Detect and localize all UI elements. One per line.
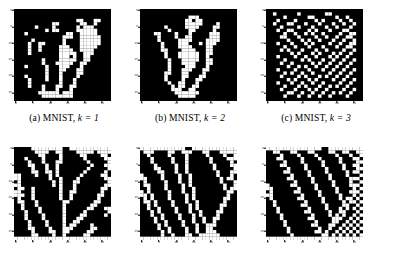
y-tick: 15 — [135, 59, 141, 62]
plot-area-a — [14, 9, 111, 101]
figure-panel-f: 0510152025 0510152025 — [252, 135, 380, 258]
y-tick: 15 — [261, 197, 267, 200]
y-tick: 0 — [262, 147, 266, 150]
y-tick-mark — [138, 10, 140, 11]
x-tick: 10 — [301, 101, 304, 106]
x-tick-label: 5 — [284, 242, 286, 245]
x-tick-label: 5 — [158, 103, 160, 106]
y-tick-mark — [264, 198, 266, 199]
plot-area-c — [266, 9, 363, 101]
x-tick-label: 5 — [158, 242, 160, 245]
y-tick-mark — [264, 148, 266, 149]
x-tick: 15 — [318, 101, 321, 106]
y-axis-f: 0510152025 — [256, 147, 266, 240]
binary-image-d — [14, 147, 111, 240]
y-tick-mark — [12, 59, 14, 60]
y-tick-mark — [138, 198, 140, 199]
x-tick-label: 15 — [318, 103, 321, 106]
x-tick-label: 25 — [101, 242, 104, 245]
y-tick: 25 — [135, 91, 141, 94]
x-tick-label: 0 — [141, 103, 143, 106]
x-tick: 0 — [141, 101, 143, 106]
plot-area-e — [140, 147, 237, 240]
x-tick-label: 20 — [83, 103, 86, 106]
y-tick: 5 — [136, 164, 140, 167]
x-tick: 5 — [32, 240, 34, 245]
x-tick-label: 0 — [267, 242, 269, 245]
y-tick: 10 — [135, 181, 141, 184]
y-axis-e: 0510152025 — [130, 147, 140, 240]
x-tick-label: 25 — [227, 242, 230, 245]
y-tick: 0 — [136, 9, 140, 12]
y-tick-mark — [12, 10, 14, 11]
y-tick: 15 — [9, 197, 15, 200]
x-tick-label: 15 — [66, 103, 69, 106]
x-tick-label: 25 — [353, 103, 356, 106]
x-tick-label: 25 — [101, 103, 104, 106]
x-tick: 5 — [284, 240, 286, 245]
x-tick: 0 — [15, 101, 17, 106]
caption-b-symbol: k = 2 — [204, 112, 225, 123]
x-tick-label: 10 — [301, 103, 304, 106]
x-tick: 5 — [32, 101, 34, 106]
x-tick-label: 10 — [301, 242, 304, 245]
y-axis-a: 0510152025 — [4, 9, 14, 101]
x-tick: 20 — [83, 240, 86, 245]
y-tick-mark — [138, 59, 140, 60]
y-tick-mark — [12, 148, 14, 149]
figure-panel-e: 0510152025 0510152025 — [126, 135, 254, 258]
x-tick-label: 15 — [66, 242, 69, 245]
caption-a: (a) MNIST, k = 1 — [0, 112, 128, 123]
x-tick-label: 5 — [284, 103, 286, 106]
caption-b: (b) MNIST, k = 2 — [126, 112, 254, 123]
x-tick: 25 — [227, 101, 230, 106]
figure-panel-d: 0510152025 0510152025 — [0, 135, 128, 258]
y-axis-c: 0510152025 — [256, 9, 266, 101]
y-axis-d: 0510152025 — [4, 147, 14, 240]
x-tick: 5 — [158, 240, 160, 245]
x-tick: 15 — [192, 101, 195, 106]
x-tick-label: 20 — [83, 242, 86, 245]
y-tick: 20 — [135, 75, 141, 78]
x-tick-label: 5 — [32, 242, 34, 245]
y-tick: 20 — [261, 75, 267, 78]
x-tick: 0 — [141, 240, 143, 245]
y-axis-b: 0510152025 — [130, 9, 140, 101]
panel-row-bottom: 0510152025 0510152025 0510152025 0510152… — [0, 135, 394, 258]
y-tick-mark — [264, 59, 266, 60]
binary-image-f — [266, 147, 363, 240]
y-tick-mark — [12, 76, 14, 77]
binary-image-e — [140, 147, 237, 240]
y-tick: 25 — [261, 230, 267, 233]
plot-area-d — [14, 147, 111, 240]
caption-c-text: (c) MNIST, — [281, 112, 330, 123]
x-tick: 0 — [267, 240, 269, 245]
x-tick: 10 — [175, 240, 178, 245]
x-tick: 15 — [192, 240, 195, 245]
y-tick: 25 — [9, 91, 15, 94]
x-tick-label: 0 — [141, 242, 143, 245]
y-tick-mark — [138, 76, 140, 77]
x-tick-label: 0 — [15, 242, 17, 245]
x-tick: 20 — [83, 101, 86, 106]
x-tick-label: 20 — [335, 242, 338, 245]
x-axis-f: 0510152025 — [266, 240, 363, 247]
y-tick-mark — [138, 181, 140, 182]
x-tick: 15 — [66, 240, 69, 245]
x-tick: 15 — [318, 240, 321, 245]
y-tick: 10 — [9, 181, 15, 184]
x-tick: 25 — [353, 240, 356, 245]
x-tick-label: 10 — [175, 103, 178, 106]
y-tick-mark — [12, 181, 14, 182]
y-tick-mark — [12, 198, 14, 199]
x-tick: 0 — [267, 101, 269, 106]
y-tick-mark — [264, 181, 266, 182]
x-axis-d: 0510152025 — [14, 240, 111, 247]
y-tick-mark — [138, 148, 140, 149]
y-tick: 5 — [136, 26, 140, 29]
x-tick-label: 20 — [209, 242, 212, 245]
y-tick-mark — [138, 43, 140, 44]
binary-image-c — [266, 9, 363, 101]
y-tick: 15 — [9, 59, 15, 62]
y-tick-mark — [264, 215, 266, 216]
